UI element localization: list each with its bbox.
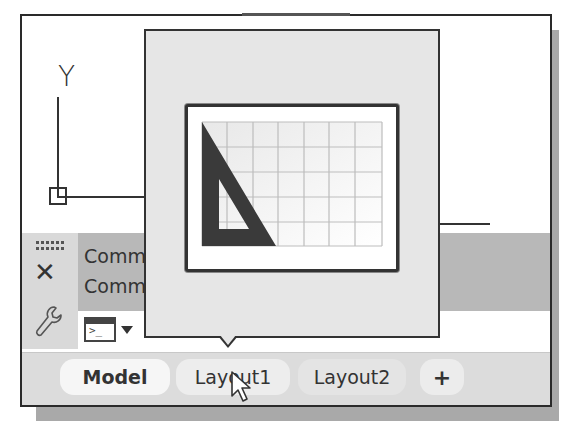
add-layout-button[interactable]: + xyxy=(420,359,464,395)
layout-sheet-triangle-icon xyxy=(188,107,396,269)
preview-popup-pointer-fill xyxy=(220,335,236,345)
ucs-origin-icon xyxy=(49,187,67,205)
window-top-grip[interactable] xyxy=(242,13,350,16)
autocad-screen: Y Comma Comma ✕ >_ Model Layou xyxy=(0,0,567,431)
prompt-glyph: >_ xyxy=(89,324,102,337)
tab-model[interactable]: Model xyxy=(60,359,170,395)
layout-thumbnail[interactable] xyxy=(185,104,399,272)
chevron-down-icon[interactable] xyxy=(121,326,133,334)
ucs-y-axis xyxy=(57,97,59,197)
close-icon[interactable]: ✕ xyxy=(34,259,56,285)
command-prompt-icon[interactable]: >_ xyxy=(84,317,116,342)
ucs-x-axis xyxy=(57,196,145,198)
ucs-x-axis-extension xyxy=(440,223,490,225)
wrench-icon[interactable] xyxy=(34,305,62,339)
tab-layout2[interactable]: Layout2 xyxy=(298,359,406,395)
ucs-y-label: Y xyxy=(58,60,75,93)
grip-handle-icon[interactable] xyxy=(36,241,68,253)
layout-tab-bar: Model Layout1 Layout2 + xyxy=(22,352,550,405)
mouse-cursor-icon xyxy=(230,370,254,404)
